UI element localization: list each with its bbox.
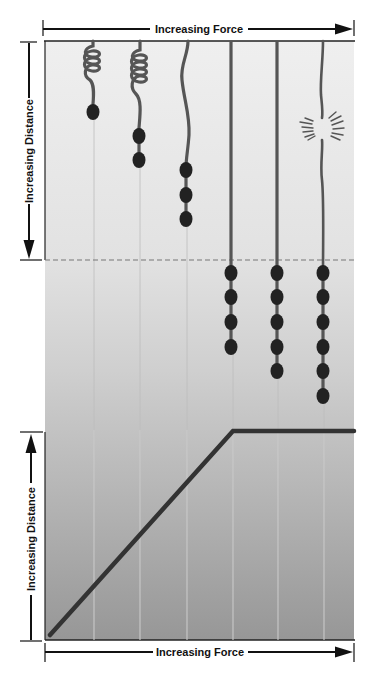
bead xyxy=(180,187,193,203)
bead xyxy=(271,289,284,305)
top-axis-label: Increasing Force xyxy=(155,23,243,35)
bottom-axis-label: Increasing Force xyxy=(156,646,244,658)
bead xyxy=(317,363,330,379)
bead xyxy=(133,152,146,168)
bead xyxy=(271,265,284,281)
lower-axis-label: Increasing Distance xyxy=(25,487,37,591)
arrowhead-right-icon xyxy=(335,647,353,658)
arrowhead-down-icon xyxy=(24,240,35,259)
bead xyxy=(317,388,330,404)
lower-distance-axis: Increasing Distance xyxy=(20,432,43,641)
upper-distance-axis: Increasing Distance xyxy=(20,42,42,260)
bottom-force-axis: Increasing Force xyxy=(45,643,354,662)
upper-axis-label: Increasing Distance xyxy=(23,99,35,203)
bead xyxy=(133,128,146,144)
top-force-axis: Increasing Force xyxy=(43,20,354,36)
bead xyxy=(271,314,284,330)
bead xyxy=(317,314,330,330)
bead xyxy=(225,289,238,305)
bead xyxy=(271,339,284,355)
arrowhead-up-icon xyxy=(26,434,37,453)
force-distance-diagram: Increasing Force Increasing Distance Inc… xyxy=(0,0,373,678)
bead xyxy=(225,339,238,355)
arrowhead-right-icon xyxy=(335,24,353,35)
bead xyxy=(180,211,193,227)
bead xyxy=(271,363,284,379)
bead xyxy=(180,162,193,178)
bead xyxy=(225,265,238,281)
bead xyxy=(317,265,330,281)
bead xyxy=(317,339,330,355)
bead xyxy=(225,314,238,330)
bead xyxy=(317,289,330,305)
bead xyxy=(87,104,100,120)
